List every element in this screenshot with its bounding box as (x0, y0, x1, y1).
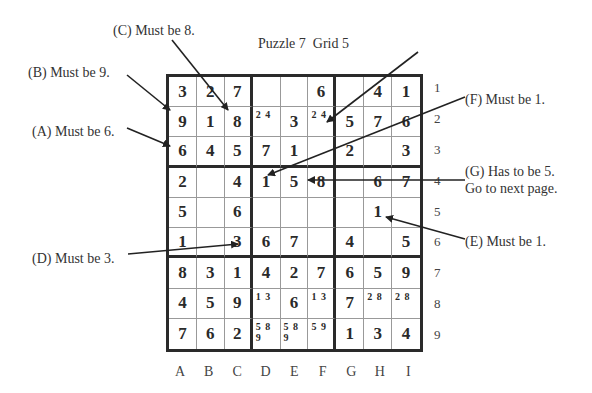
cell-I6: 5 (392, 228, 420, 258)
cell-candidates: 2 4 (256, 109, 278, 120)
cell-value: 3 (178, 82, 187, 102)
sudoku-grid: 3276419182 432 4576645712324158675611367… (166, 74, 423, 352)
cell-G2: 5 (336, 107, 364, 137)
row-label: 8 (434, 296, 441, 312)
cell-candidates: 2 8 (367, 291, 389, 302)
cell-F9: 5 9 (308, 319, 336, 349)
cell-I8: 2 8 (392, 289, 420, 319)
cell-G8: 7 (336, 289, 364, 319)
row-label: 5 (434, 204, 441, 220)
cell-value: 1 (262, 172, 271, 192)
cell-value: 6 (262, 232, 271, 252)
cell-value: 7 (233, 82, 242, 102)
column-label: B (195, 364, 223, 380)
cell-F7: 7 (308, 258, 336, 288)
cell-E4: 5 (281, 168, 309, 198)
cell-H6 (364, 228, 392, 258)
cell-value: 5 (402, 232, 411, 252)
cell-value: 7 (402, 172, 411, 192)
cell-C8: 9 (225, 289, 253, 319)
cell-F8: 1 3 (308, 289, 336, 319)
cell-H1: 4 (364, 77, 392, 107)
cell-G7: 6 (336, 258, 364, 288)
cell-value: 3 (206, 263, 215, 283)
cell-value: 8 (317, 172, 326, 192)
cell-A7: 8 (169, 258, 197, 288)
cell-A5: 5 (169, 198, 197, 228)
cell-D8: 1 3 (253, 289, 281, 319)
cell-value: 7 (346, 293, 355, 313)
cell-C7: 1 (225, 258, 253, 288)
arrow-a-icon (127, 128, 170, 146)
cell-A6: 1 (169, 228, 197, 258)
puzzle-title: Puzzle 7 Grid 5 (258, 36, 349, 52)
cell-I2: 6 (392, 107, 420, 137)
cell-value: 6 (317, 82, 326, 102)
cell-candidates: 1 3 (256, 291, 278, 302)
cell-value: 4 (373, 82, 382, 102)
cell-C1: 7 (225, 77, 253, 107)
cell-E8: 6 (281, 289, 309, 319)
row-label: 2 (434, 111, 441, 127)
annotation-g-line2: Go to next page. (465, 180, 558, 197)
cell-value: 2 (178, 172, 187, 192)
cell-A9: 7 (169, 319, 197, 349)
cell-D4: 1 (253, 168, 281, 198)
cell-candidates: 2 4 (311, 109, 331, 120)
cell-I3: 3 (392, 137, 420, 167)
cell-value: 6 (373, 172, 382, 192)
cell-G4 (336, 168, 364, 198)
row-label: 6 (434, 234, 441, 250)
cell-H7: 5 (364, 258, 392, 288)
cell-F6 (308, 228, 336, 258)
cell-G6: 4 (336, 228, 364, 258)
cell-value: 7 (178, 324, 187, 344)
cell-candidates: 2 8 (395, 291, 418, 302)
cell-C3: 5 (225, 137, 253, 167)
cell-candidates: 5 9 (311, 321, 331, 332)
cell-candidates: 5 8 9 (256, 321, 278, 343)
cell-E5 (281, 198, 309, 228)
cell-value: 3 (233, 232, 242, 252)
cell-B6 (197, 228, 225, 258)
cell-E3: 1 (281, 137, 309, 167)
cell-H2: 7 (364, 107, 392, 137)
cell-E2: 3 (281, 107, 309, 137)
arrow-b-icon (127, 75, 170, 110)
cell-I4: 7 (392, 168, 420, 198)
cell-value: 1 (233, 263, 242, 283)
cell-B9: 6 (197, 319, 225, 349)
cell-value: 6 (402, 112, 411, 132)
column-label: A (166, 364, 194, 380)
cell-value: 5 (290, 172, 299, 192)
cell-candidates: 1 3 (311, 291, 331, 302)
cell-value: 2 (206, 82, 215, 102)
annotation-d: (D) Must be 3. (32, 250, 114, 267)
annotation-g: (G) Has to be 5. Go to next page. (465, 163, 558, 197)
cell-value: 6 (178, 141, 187, 161)
cell-C6: 3 (225, 228, 253, 258)
cell-value: 3 (290, 112, 299, 132)
column-label: E (280, 364, 308, 380)
cell-value: 1 (373, 202, 382, 222)
cell-value: 1 (346, 324, 355, 344)
cell-I9: 4 (392, 319, 420, 349)
annotation-c: (C) Must be 8. (113, 22, 195, 39)
cell-value: 1 (402, 82, 411, 102)
cell-C5: 6 (225, 198, 253, 228)
annotation-a: (A) Must be 6. (32, 123, 114, 140)
cell-value: 8 (233, 112, 242, 132)
cell-value: 2 (346, 141, 355, 161)
cell-B8: 5 (197, 289, 225, 319)
cell-value: 4 (206, 141, 215, 161)
cell-B4 (197, 168, 225, 198)
cell-value: 1 (290, 141, 299, 161)
cell-C4: 4 (225, 168, 253, 198)
cell-E1 (281, 77, 309, 107)
annotation-e: (E) Must be 1. (465, 233, 546, 250)
cell-value: 4 (402, 324, 411, 344)
cell-value: 3 (373, 324, 382, 344)
cell-H5: 1 (364, 198, 392, 228)
cell-F4: 8 (308, 168, 336, 198)
cell-value: 7 (262, 141, 271, 161)
